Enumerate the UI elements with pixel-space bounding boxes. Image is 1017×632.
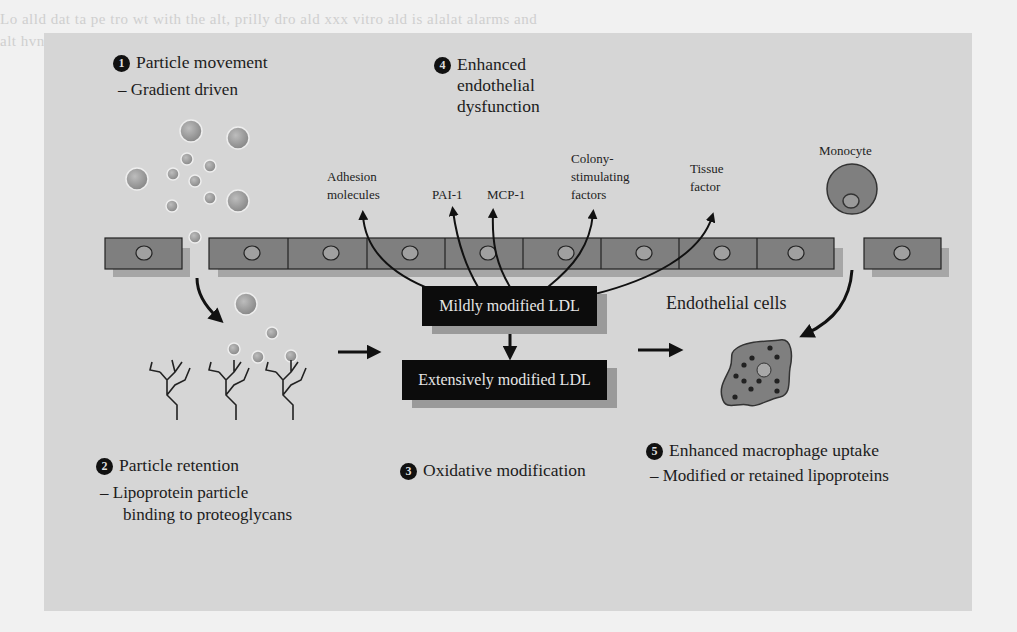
label-pai-1: PAI-1 xyxy=(432,186,463,204)
macrophage-icon xyxy=(721,340,791,406)
step-5-title: 5Enhanced macrophage uptake xyxy=(646,440,879,461)
mildly-modified-ldl-box: Mildly modified LDL xyxy=(422,286,597,326)
step-2-title: 2Particle retention xyxy=(96,455,239,476)
monocyte-icon xyxy=(827,164,877,214)
label-colony-stimulating-factors: Colony-stimulatingfactors xyxy=(571,150,630,204)
step-number-badge: 2 xyxy=(96,458,113,475)
label-tissue-factor: Tissuefactor xyxy=(690,160,723,196)
label-endothelial-cells: Endothelial cells xyxy=(666,293,786,314)
step-5-detail: – Modified or retained lipoproteins xyxy=(650,466,889,486)
step-4-title: 4Enhanced endothelial dysfunction xyxy=(434,54,540,117)
step-1-title: 1Particle movement xyxy=(113,52,268,73)
step-number-badge: 5 xyxy=(646,443,663,460)
step-1-detail: – Gradient driven xyxy=(118,80,238,100)
proteoglycan-icon xyxy=(150,360,306,420)
extensively-modified-ldl-box: Extensively modified LDL xyxy=(402,360,607,400)
step-number-badge: 3 xyxy=(400,463,417,480)
curved-arrow-icon xyxy=(197,278,218,318)
label-adhesion-molecules: Adhesionmolecules xyxy=(327,168,380,204)
label-mcp-1: MCP-1 xyxy=(487,186,525,204)
monocyte-migration-arrow-icon xyxy=(806,270,852,334)
step-number-badge: 1 xyxy=(113,55,130,72)
endothelial-layer xyxy=(105,238,949,277)
step-3-title: 3Oxidative modification xyxy=(400,460,586,481)
retained-particles-icon xyxy=(228,293,297,363)
step-2-detail: – Lipoprotein particlebinding to proteog… xyxy=(100,482,292,526)
step-number-badge: 4 xyxy=(434,57,451,74)
label-monocyte: Monocyte xyxy=(819,142,872,160)
lipoprotein-particles-icon xyxy=(126,120,249,243)
